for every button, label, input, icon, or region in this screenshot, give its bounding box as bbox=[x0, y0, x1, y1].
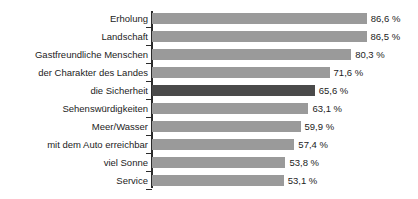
axis-tick bbox=[146, 117, 152, 118]
bar-row: viel Sonne53,8 % bbox=[0, 155, 418, 173]
bar-row: Service53,1 % bbox=[0, 173, 418, 191]
category-label: der Charakter des Landes bbox=[0, 67, 148, 79]
category-label: die Sicherheit bbox=[0, 85, 148, 97]
bar bbox=[152, 31, 367, 42]
bar-row: Meer/Wasser59,9 % bbox=[0, 119, 418, 137]
bar-row: Erholung86,6 % bbox=[0, 11, 418, 29]
category-label: viel Sonne bbox=[0, 157, 148, 169]
bar bbox=[152, 139, 294, 150]
category-label: Meer/Wasser bbox=[0, 121, 148, 133]
bar-value-label: 86,6 % bbox=[371, 13, 401, 25]
bar-value-label: 80,3 % bbox=[355, 49, 385, 61]
axis-tick bbox=[146, 27, 152, 28]
plot-area: Erholung86,6 %Landschaft86,5 %Gastfreund… bbox=[0, 9, 418, 199]
bar-value-label: 53,1 % bbox=[288, 175, 318, 187]
bar-value-label: 53,8 % bbox=[289, 157, 319, 169]
bar-row: Landschaft86,5 % bbox=[0, 29, 418, 47]
bar bbox=[152, 103, 308, 114]
bar bbox=[152, 157, 285, 168]
bar bbox=[152, 13, 367, 24]
axis-tick bbox=[146, 63, 152, 64]
bar-value-label: 71,6 % bbox=[334, 67, 364, 79]
axis-tick bbox=[146, 99, 152, 100]
category-label: Service bbox=[0, 175, 148, 187]
bar-value-label: 86,5 % bbox=[371, 31, 401, 43]
bar bbox=[152, 121, 301, 132]
bar-value-label: 57,4 % bbox=[298, 139, 328, 151]
category-label: Erholung bbox=[0, 13, 148, 25]
category-label: Sehenswürdigkeiten bbox=[0, 103, 148, 115]
bar bbox=[152, 67, 330, 78]
axis-tick bbox=[146, 153, 152, 154]
axis-tick bbox=[146, 189, 152, 190]
axis-tick bbox=[146, 45, 152, 46]
bar-row: die Sicherheit65,6 % bbox=[0, 83, 418, 101]
chart-title-cropped bbox=[0, 0, 418, 9]
bar-highlighted bbox=[152, 85, 315, 96]
bar bbox=[152, 49, 351, 60]
bar-chart: Erholung86,6 %Landschaft86,5 %Gastfreund… bbox=[0, 0, 418, 199]
category-label: Gastfreundliche Menschen bbox=[0, 49, 148, 61]
category-label: mit dem Auto erreichbar bbox=[0, 139, 148, 151]
category-label: Landschaft bbox=[0, 31, 148, 43]
axis-tick bbox=[146, 81, 152, 82]
bar-row: Gastfreundliche Menschen80,3 % bbox=[0, 47, 418, 65]
bar-value-label: 63,1 % bbox=[312, 103, 342, 115]
bar-row: mit dem Auto erreichbar57,4 % bbox=[0, 137, 418, 155]
bar bbox=[152, 175, 284, 186]
axis-tick bbox=[146, 135, 152, 136]
bar-value-label: 59,9 % bbox=[305, 121, 335, 133]
bar-row: Sehenswürdigkeiten63,1 % bbox=[0, 101, 418, 119]
axis-tick bbox=[146, 171, 152, 172]
bar-row: der Charakter des Landes71,6 % bbox=[0, 65, 418, 83]
bar-value-label: 65,6 % bbox=[319, 85, 349, 97]
